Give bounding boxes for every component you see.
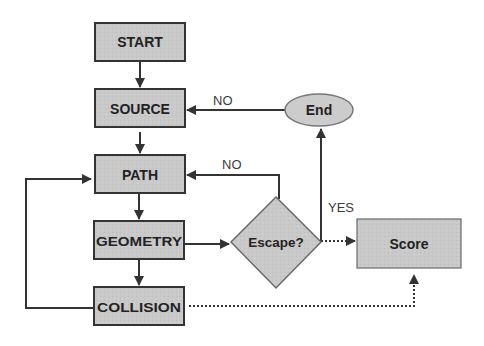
edge-label-escape-to-path: NO [222, 157, 242, 172]
node-escape-decision: Escape? [231, 197, 321, 288]
edge-escape-to-path [187, 175, 279, 199]
edge-label-end-to-source: NO [213, 93, 233, 108]
node-score-label: Score [390, 236, 429, 252]
node-end-label: End [306, 102, 332, 118]
node-source: SOURCE [95, 89, 185, 127]
node-start: START [95, 23, 185, 61]
edge-collision-to-score [189, 275, 414, 306]
node-end: End [285, 94, 353, 126]
node-escape-label: Escape? [248, 235, 304, 250]
node-path: PATH [95, 155, 185, 193]
node-geometry-label: GEOMETRY [96, 234, 182, 249]
node-collision-label: COLLISION [97, 300, 181, 315]
node-score: Score [357, 219, 461, 268]
edge-label-escape-to-end: YES [328, 200, 354, 215]
node-path-label: PATH [122, 167, 158, 183]
edge-collision-to-path [26, 179, 93, 308]
node-collision: COLLISION [94, 287, 184, 325]
node-source-label: SOURCE [110, 101, 170, 117]
flowchart-diagram: NO NO YES START SOURCE PATH GEOMETRY COL… [0, 0, 484, 346]
node-start-label: START [117, 34, 163, 50]
node-geometry: GEOMETRY [94, 221, 184, 259]
